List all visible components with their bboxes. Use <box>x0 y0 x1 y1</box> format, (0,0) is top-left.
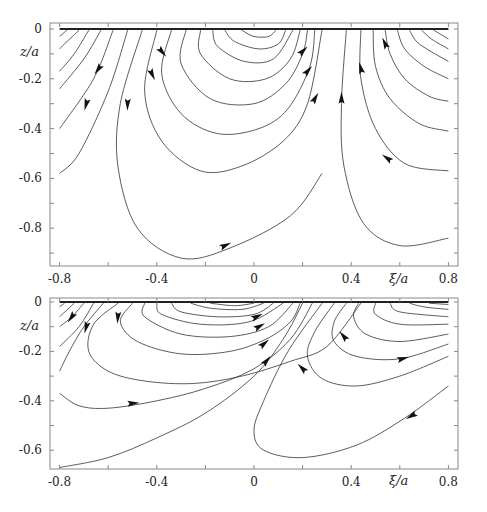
x-tick-label: 0 <box>250 272 258 286</box>
streamline <box>360 30 449 171</box>
y-tick-label: -0.8 <box>19 221 42 235</box>
plot-frame <box>50 23 458 266</box>
streamline <box>341 30 448 246</box>
streamline <box>353 303 448 341</box>
streamlines-bottom <box>60 303 449 467</box>
flow-arrow-icon <box>337 329 349 342</box>
streamline <box>374 303 449 325</box>
streamline <box>88 303 361 384</box>
streamline <box>116 30 322 259</box>
y-tick-label: -0.6 <box>19 171 42 185</box>
streamline <box>60 30 128 173</box>
streamline <box>434 30 449 39</box>
streamline <box>157 303 283 325</box>
streamlines-top <box>60 30 449 259</box>
streamline <box>60 303 65 307</box>
streamline <box>225 30 286 49</box>
streamline <box>254 303 448 458</box>
streamline-figure: -0.8-0.400.40.80-0.2-0.4-0.6-0.8 z/a ξ/a… <box>0 0 487 512</box>
x-tick-label: 0 <box>250 475 258 489</box>
flow-arrows-top <box>82 36 394 250</box>
streamline <box>142 303 293 337</box>
flow-arrow-icon <box>356 61 365 74</box>
streamline <box>60 30 79 49</box>
x-tick-label: -0.4 <box>145 475 169 489</box>
streamline <box>390 303 448 317</box>
x-tick-label: 0.8 <box>439 272 458 286</box>
flow-arrow-icon <box>124 99 130 111</box>
flow-arrow-icon <box>258 337 271 349</box>
top-panel: -0.8-0.400.40.80-0.2-0.4-0.6-0.8 z/a ξ/a <box>19 22 458 286</box>
flow-arrow-icon <box>127 400 139 407</box>
x-tick-label: -0.8 <box>48 272 71 286</box>
x-tick-label: -0.8 <box>48 475 71 489</box>
y-tick-label: -0.2 <box>19 344 42 358</box>
flow-arrow-icon <box>82 98 91 111</box>
streamline <box>60 303 104 371</box>
flow-arrow-icon <box>219 240 232 251</box>
streamline <box>422 30 449 49</box>
flow-arrow-icon <box>297 44 310 57</box>
y-tick-label: -0.6 <box>19 443 42 457</box>
flow-arrow-icon <box>253 321 266 332</box>
streamline <box>429 303 448 304</box>
flow-arrow-icon <box>310 91 321 104</box>
flow-arrow-icon <box>296 362 309 375</box>
x-axis-label-top: ξ/a <box>389 271 408 286</box>
x-tick-label: 0.8 <box>439 475 458 489</box>
y-tick-label: -0.4 <box>19 122 43 136</box>
streamline <box>162 30 315 134</box>
y-tick-label: -0.2 <box>19 72 42 86</box>
flow-arrow-icon <box>404 411 417 422</box>
flow-arrow-icon <box>302 64 314 77</box>
y-axis-label-bottom: z/a <box>19 318 39 333</box>
flow-arrow-icon <box>156 46 168 59</box>
y-axis-label-top: z/a <box>19 44 39 59</box>
streamline <box>180 30 308 105</box>
bottom-panel: -0.8-0.400.40.80-0.2-0.4-0.6 z/a ξ/a <box>19 295 458 489</box>
streamline <box>191 303 264 309</box>
flow-arrow-icon <box>92 63 104 76</box>
streamline <box>385 30 448 101</box>
streamline <box>145 30 322 172</box>
streamline <box>332 303 448 360</box>
x-tick-label: 0.4 <box>342 272 361 286</box>
flow-arrow-icon <box>147 68 158 81</box>
streamline <box>60 30 89 71</box>
streamline <box>242 30 276 37</box>
flow-arrow-icon <box>380 152 393 164</box>
x-axis-label-bottom: ξ/a <box>389 473 408 488</box>
y-tick-label: -0.4 <box>19 394 43 408</box>
x-tick-label: -0.4 <box>145 272 169 286</box>
streamline <box>60 30 67 36</box>
y-tick-label: 0 <box>34 22 42 36</box>
x-tick-label: 0.4 <box>342 475 361 489</box>
streamline <box>397 30 448 79</box>
streamline <box>213 30 293 63</box>
streamline <box>210 303 254 306</box>
flow-arrows-bottom <box>65 311 418 422</box>
y-tick-label: 0 <box>34 295 42 309</box>
flow-arrow-icon <box>397 354 410 363</box>
axes-top: -0.8-0.400.40.80-0.2-0.4-0.6-0.8 <box>19 22 458 286</box>
streamline <box>120 303 300 354</box>
streamline <box>60 30 101 89</box>
